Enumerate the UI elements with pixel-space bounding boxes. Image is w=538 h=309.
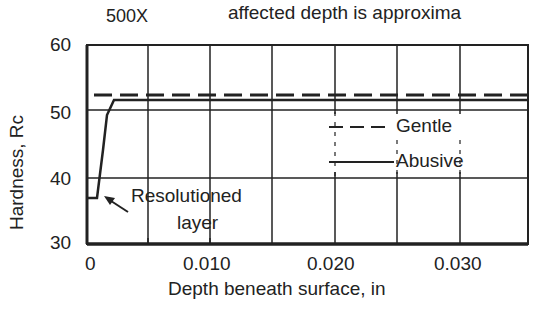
y-tick-40: 40 (50, 168, 71, 190)
x-tick-0: 0 (85, 253, 96, 275)
y-tick-30: 30 (50, 232, 71, 254)
annotation-line1: Resolutioned (131, 185, 242, 207)
x-tick-0010: 0.010 (183, 253, 231, 275)
x-tick-0020: 0.020 (307, 253, 355, 275)
legend-abusive: Abusive (396, 150, 464, 172)
annotation-line2: layer (177, 212, 218, 234)
x-axis-label: Depth beneath surface, in (168, 278, 386, 300)
y-axis-label: Hardness, Rc (6, 115, 28, 230)
y-tick-50: 50 (50, 102, 71, 124)
legend-gentle: Gentle (396, 115, 452, 137)
x-tick-0030: 0.030 (434, 253, 482, 275)
y-tick-60: 60 (50, 34, 71, 56)
